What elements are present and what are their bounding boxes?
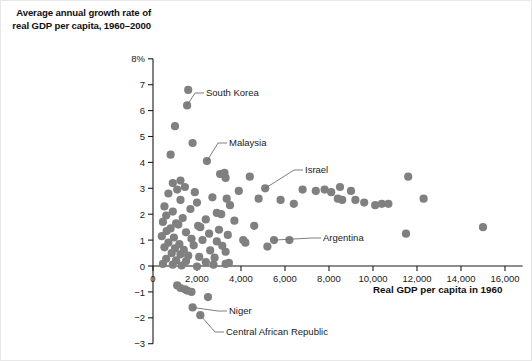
data-point — [246, 173, 254, 181]
x-tick-label: 4,000 — [229, 273, 253, 284]
chart-figure: Average annual growth rate of real GDP p… — [0, 0, 532, 361]
data-point — [208, 193, 216, 201]
y-tick-label: 3 — [140, 183, 145, 194]
data-point — [204, 293, 212, 301]
data-point — [384, 200, 392, 208]
data-point — [171, 122, 179, 130]
data-point — [250, 222, 258, 230]
data-point — [173, 185, 181, 193]
y-tick-label: 7 — [140, 79, 145, 90]
data-point — [159, 218, 167, 226]
annotation-label: Malaysia — [229, 137, 267, 148]
annotation-label: South Korea — [206, 87, 260, 98]
data-point — [299, 185, 307, 193]
data-point — [312, 187, 320, 195]
data-point — [164, 189, 172, 197]
y-tick-label: −2 — [134, 312, 145, 323]
data-point — [174, 220, 182, 228]
data-point — [290, 200, 298, 208]
annotation-leader-line — [193, 307, 227, 311]
data-point — [184, 86, 192, 94]
data-point — [196, 223, 204, 231]
data-point — [198, 236, 206, 244]
data-point — [239, 236, 247, 244]
data-point — [285, 236, 293, 244]
data-point — [193, 262, 201, 270]
data-point — [360, 198, 368, 206]
x-tick-label: 6,000 — [273, 273, 297, 284]
data-point — [206, 246, 214, 254]
y-tick-label: 4 — [140, 157, 145, 168]
annotation-label: Niger — [229, 305, 252, 316]
y-tick-label: 5 — [140, 131, 145, 142]
data-point — [186, 205, 194, 213]
data-point — [169, 261, 177, 269]
data-point — [226, 201, 234, 209]
data-point — [193, 198, 201, 206]
y-tick-label: 6 — [140, 105, 145, 116]
annotation-leader-line — [274, 238, 321, 240]
data-point — [222, 248, 230, 256]
annotation-leader-line — [265, 170, 303, 188]
y-tick-label: −3 — [134, 338, 145, 349]
data-point — [202, 258, 210, 266]
data-point — [277, 196, 285, 204]
x-tick-label: 16,000 — [490, 273, 519, 284]
data-point — [479, 223, 487, 231]
data-point — [158, 232, 166, 240]
annotation-label: Israel — [305, 164, 328, 175]
x-tick-label: 10,000 — [358, 273, 387, 284]
data-point — [159, 260, 167, 268]
data-point — [222, 174, 230, 182]
data-point — [336, 183, 344, 191]
data-point — [217, 210, 225, 218]
x-tick-label: 12,000 — [402, 273, 431, 284]
data-point — [181, 183, 189, 191]
data-point — [420, 195, 428, 203]
data-point — [178, 261, 186, 269]
data-point — [195, 253, 203, 261]
y-tick-label: 8% — [131, 53, 145, 64]
data-point — [209, 261, 217, 269]
y-tick-label: −1 — [134, 287, 145, 298]
data-point — [189, 139, 197, 147]
data-point — [190, 241, 198, 249]
data-point — [160, 243, 168, 251]
annotation-label: Argentina — [323, 232, 364, 243]
x-tick-label: 0 — [150, 273, 155, 284]
data-point — [263, 242, 271, 250]
scatter-plot: 8%76543210−1−2−302,0004,0006,0008,00010,… — [1, 1, 532, 361]
data-point — [338, 196, 346, 204]
data-point — [347, 187, 355, 195]
data-point — [255, 195, 263, 203]
y-tick-label: 0 — [140, 261, 145, 272]
y-tick-label: 2 — [140, 209, 145, 220]
data-point — [224, 231, 232, 239]
annotation-leader-line — [200, 315, 224, 332]
data-point — [327, 188, 335, 196]
data-point — [230, 217, 238, 225]
data-point — [351, 196, 359, 204]
data-point — [187, 288, 195, 296]
data-point — [404, 173, 412, 181]
x-tick-label: 2,000 — [185, 273, 209, 284]
data-point — [222, 260, 230, 268]
data-point — [191, 188, 199, 196]
data-point — [182, 228, 190, 236]
data-point — [215, 226, 223, 234]
data-point — [235, 187, 243, 195]
annotation-label: Central African Republic — [226, 326, 328, 337]
data-point — [205, 230, 213, 238]
data-point — [202, 215, 210, 223]
y-tick-label: 1 — [140, 235, 145, 246]
data-point — [402, 230, 410, 238]
data-point — [167, 151, 175, 159]
data-point — [160, 202, 168, 210]
x-tick-label: 14,000 — [446, 273, 475, 284]
x-tick-label: 8,000 — [317, 273, 341, 284]
data-point — [176, 196, 184, 204]
data-point — [211, 254, 219, 262]
